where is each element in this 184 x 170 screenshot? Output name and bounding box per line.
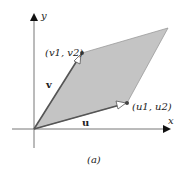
y-axis-label: y <box>40 10 47 21</box>
v-endpoint-label: (v1, v2) <box>45 47 83 58</box>
u-endpoint-label: (u1, u2) <box>132 101 172 112</box>
y-axis-arrow-icon <box>30 13 38 21</box>
point-u <box>125 101 129 105</box>
figure-caption: (a) <box>87 154 101 165</box>
parallelogram-diagram: y x (v1, v2) (u1, u2) v u (a) <box>0 0 184 170</box>
x-axis-arrow-icon <box>163 125 171 133</box>
x-axis-label: x <box>168 115 174 126</box>
parallelogram-region <box>34 28 168 129</box>
vector-u-label: u <box>82 117 89 128</box>
vector-v-label: v <box>45 79 53 90</box>
